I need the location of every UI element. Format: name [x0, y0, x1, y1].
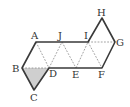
edge-j-e — [62, 42, 76, 68]
label-d: D — [49, 68, 57, 79]
dashed-fold-lines — [22, 42, 115, 68]
label-g: G — [116, 37, 124, 48]
edge-d-j — [49, 42, 62, 68]
label-b: B — [12, 63, 19, 74]
label-e: E — [72, 69, 79, 80]
edge-e-i — [76, 42, 88, 68]
label-h: H — [97, 7, 106, 18]
label-f: F — [98, 69, 105, 80]
label-i: I — [84, 30, 88, 41]
label-c: C — [30, 92, 38, 103]
net-diagram: A J I H G B D E F C — [0, 0, 130, 107]
edge-a-d — [36, 42, 49, 68]
edge-i-f — [88, 42, 102, 68]
label-j: J — [57, 30, 62, 41]
label-a: A — [30, 30, 39, 41]
